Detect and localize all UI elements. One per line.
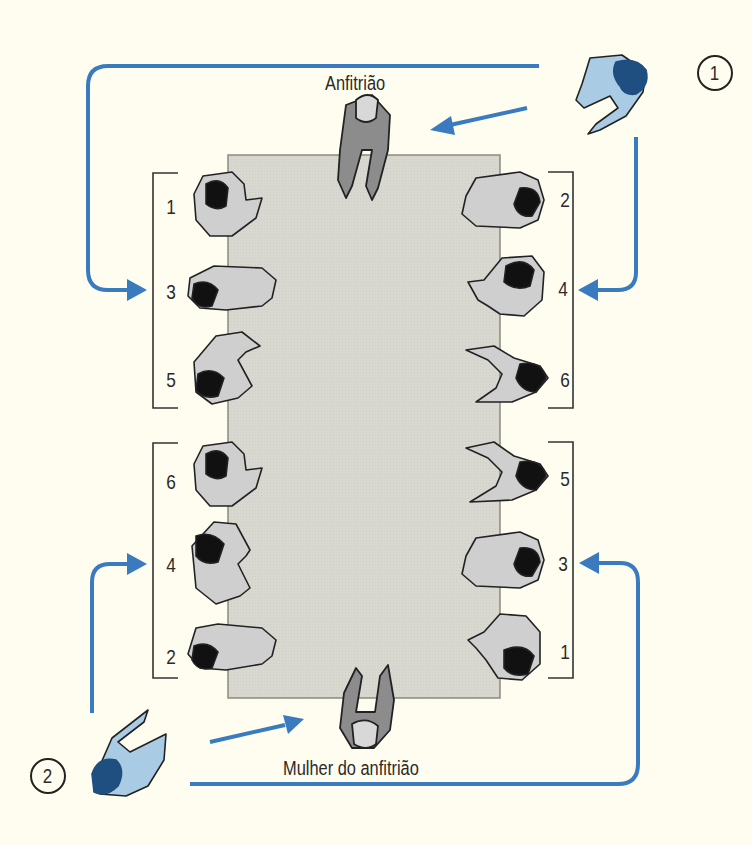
seated-left-top-3 [188,266,276,310]
guest-1-badge: 1 [697,55,733,91]
guest-1-badge-number: 1 [710,62,719,85]
guest-2-figure [92,710,166,796]
arrowhead-hostess [283,715,304,734]
seat-number-left-top-5: 5 [163,368,179,392]
arrow-guest2-to-hostess [210,725,285,742]
seat-number-left-top-1: 1 [163,195,179,219]
seat-number-right-bottom-3: 3 [555,552,571,576]
seated-left-bottom-2 [188,624,276,670]
seat-number-left-bottom-4: 4 [163,553,179,577]
seated-right-bottom-3 [462,532,544,588]
dining-table [228,155,500,698]
arrowhead-left-3 [127,279,147,301]
seat-number-right-top-6: 6 [557,368,573,392]
seat-number-right-bottom-1: 1 [557,640,573,664]
seat-number-right-bottom-5: 5 [557,467,573,491]
guest-2-badge-number: 2 [43,765,52,788]
arrowhead-host [430,116,455,135]
seated-right-top-2 [462,172,544,228]
arrowhead-left-4 [127,553,147,575]
arrow-guest2-to-left [92,564,128,713]
arrow-guest1-to-right [596,137,636,290]
arrow-guest1-to-host [450,108,527,125]
seat-number-right-top-4: 4 [555,277,571,301]
seat-number-left-bottom-2: 2 [163,645,179,669]
seat-number-left-top-3: 3 [163,280,179,304]
arrowhead-right-3 [579,552,599,574]
guest-1-figure [576,55,647,134]
seat-number-left-bottom-6: 6 [163,470,179,494]
host-label: Anfitrião [325,72,385,95]
hostess-label: Mulher do anfitrião [283,757,419,780]
arrowhead-right-4 [578,279,598,301]
seat-number-right-top-2: 2 [557,188,573,212]
guest-2-badge: 2 [30,758,66,794]
seating-diagram [0,0,752,845]
